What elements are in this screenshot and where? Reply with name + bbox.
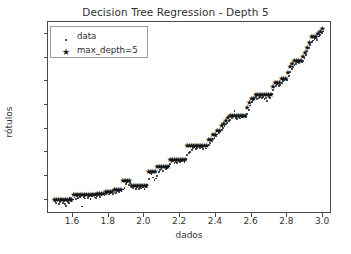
x-tick-label: 2.8 (279, 216, 293, 226)
x-tick-mark (286, 213, 287, 217)
prediction-point (253, 100, 256, 103)
prediction-point (146, 187, 149, 190)
x-tick-mark (215, 213, 216, 217)
x-axis-label: dados (47, 230, 331, 240)
prediction-point (167, 168, 170, 171)
prediction-point (184, 161, 187, 164)
data-point (148, 178, 150, 180)
data-point (81, 206, 83, 208)
x-tick-mark (143, 213, 144, 217)
prediction-point (289, 68, 292, 71)
x-tick-label: 2.0 (136, 216, 150, 226)
chart-title: Decision Tree Regression - Depth 5 (0, 6, 351, 18)
data-point (188, 152, 190, 154)
prediction-point (321, 30, 324, 33)
prediction-point (246, 108, 249, 111)
prediction-point (120, 191, 123, 194)
prediction-point (302, 57, 305, 60)
prediction-point (300, 62, 303, 65)
prediction-point (304, 54, 307, 57)
prediction-point (291, 65, 294, 68)
prediction-point (279, 84, 282, 87)
x-tick-label: 1.8 (101, 216, 115, 226)
prediction-point (219, 131, 222, 134)
prediction-point (309, 43, 312, 46)
data-point (152, 177, 154, 179)
prediction-point (287, 74, 290, 77)
legend-label-data: data (77, 31, 96, 41)
prediction-point (71, 201, 74, 204)
x-tick-mark (251, 213, 252, 217)
data-point (154, 179, 156, 181)
prediction-point (249, 103, 252, 106)
x-tick-label: 3.0 (315, 216, 329, 226)
x-tick-mark (179, 213, 180, 217)
data-point (155, 178, 157, 180)
prediction-point (244, 116, 247, 119)
x-tick-mark (72, 213, 73, 217)
chart-legend: data ★ max_depth=5 (50, 26, 148, 58)
prediction-point (270, 96, 273, 99)
x-tick-label: 2.2 (172, 216, 186, 226)
x-tick-mark (108, 213, 109, 217)
x-tick-label: 2.6 (243, 216, 257, 226)
data-point (266, 100, 268, 102)
legend-item-max-depth: ★ max_depth=5 (51, 43, 147, 57)
prediction-point (272, 87, 275, 90)
legend-star-marker-icon: ★ (55, 42, 77, 58)
x-tick-label: 2.4 (208, 216, 222, 226)
legend-item-data: data (51, 29, 147, 43)
y-axis-label: rótulos (4, 107, 14, 138)
prediction-point (214, 136, 217, 139)
prediction-point (285, 79, 288, 82)
legend-label-max-depth: max_depth=5 (77, 45, 138, 55)
x-tick-label: 1.6 (65, 216, 79, 226)
prediction-point (306, 49, 309, 52)
prediction-point (154, 173, 157, 176)
prediction-point (206, 146, 209, 149)
matplotlib-figure: Decision Tree Regression - Depth 5 rótul… (0, 0, 351, 254)
data-point (189, 151, 191, 153)
prediction-point (315, 38, 318, 41)
x-tick-mark (322, 213, 323, 217)
data-point (65, 205, 67, 207)
prediction-point (225, 122, 228, 125)
prediction-point (210, 140, 213, 143)
